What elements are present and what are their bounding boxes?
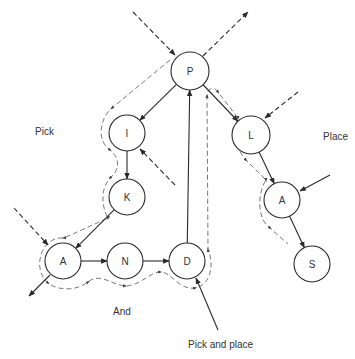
edge-l-to-a2 bbox=[259, 152, 274, 184]
node-k: K bbox=[109, 179, 145, 215]
external-arrow-3 bbox=[14, 208, 48, 245]
tree-nodes: PIKANDLAS bbox=[45, 52, 330, 282]
region-labels: PickPlaceAndPick and place bbox=[35, 126, 348, 350]
node-i: I bbox=[109, 115, 145, 151]
region-label: Place bbox=[323, 131, 348, 142]
node-s: S bbox=[294, 246, 330, 282]
edge-a2-to-s bbox=[290, 216, 305, 247]
node-p: P bbox=[171, 52, 209, 90]
edge-k-to-a1 bbox=[76, 210, 115, 249]
node-label: N bbox=[121, 256, 128, 267]
region-label: Pick and place bbox=[188, 339, 253, 350]
edge-d-to-p bbox=[187, 90, 189, 243]
external-arrow-7 bbox=[300, 175, 330, 191]
external-arrow-0 bbox=[133, 12, 175, 55]
external-arrow-2 bbox=[140, 149, 175, 185]
external-arrows bbox=[14, 12, 330, 330]
node-label: D bbox=[183, 256, 190, 267]
pick-and-place-tree-diagram: PIKANDLAS PickPlaceAndPick and place bbox=[0, 0, 355, 359]
node-label: K bbox=[124, 192, 131, 203]
node-n: N bbox=[107, 243, 143, 279]
edge-p-to-l bbox=[203, 85, 238, 121]
node-l: L bbox=[232, 116, 270, 154]
node-label: P bbox=[187, 66, 194, 77]
node-label: A bbox=[279, 195, 286, 206]
node-label: S bbox=[309, 259, 316, 270]
region-label: Pick bbox=[35, 126, 55, 137]
node-a2: A bbox=[264, 182, 300, 218]
node-label: L bbox=[248, 130, 254, 141]
external-arrow-1 bbox=[203, 12, 248, 56]
external-arrow-5 bbox=[196, 278, 218, 330]
region-label: And bbox=[113, 306, 131, 317]
node-label: A bbox=[60, 256, 67, 267]
node-d: D bbox=[169, 243, 205, 279]
external-arrow-6 bbox=[265, 92, 298, 118]
node-label: I bbox=[126, 128, 129, 139]
tree-edges bbox=[76, 84, 305, 261]
edge-p-to-i bbox=[140, 84, 177, 120]
node-a1: A bbox=[45, 243, 81, 279]
external-arrow-4 bbox=[29, 275, 50, 296]
